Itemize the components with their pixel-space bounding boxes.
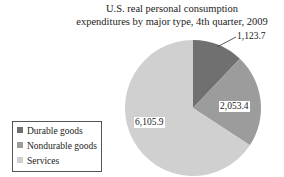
slice-label-services: 6,105.9 [134,117,165,128]
legend-swatch-services [17,157,23,163]
legend-swatch-durable-goods [17,127,23,133]
legend-item-durable-goods: Durable goods [17,126,83,137]
legend-item-nondurable-goods: Nondurable goods [17,141,97,152]
legend-swatch-nondurable-goods [17,142,23,148]
slice-label-durable-goods: 1,123.7 [236,31,267,42]
legend-item-services: Services [17,156,59,167]
slice-label-nondurable-goods: 2,053.4 [219,101,250,112]
chart-legend: Durable goods Nondurable goods Services [12,121,102,172]
leader-line [217,37,236,47]
